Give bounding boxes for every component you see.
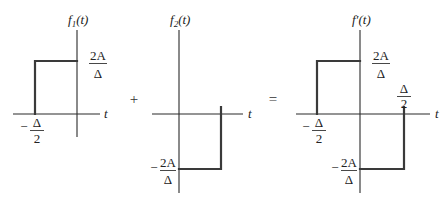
fprime-positive-pulse	[317, 61, 360, 114]
fprime-neg-amplitude-label: − 2A Δ	[331, 155, 357, 187]
svg-text:−: −	[150, 160, 157, 175]
svg-text:2: 2	[316, 131, 323, 146]
svg-text:2A: 2A	[160, 155, 177, 170]
svg-text:−: −	[331, 160, 338, 175]
equals-operator: =	[269, 91, 277, 107]
svg-text:2A: 2A	[373, 48, 390, 63]
f2-amplitude-label: − 2A Δ	[150, 155, 176, 187]
f1-edge-label: − Δ 2	[20, 115, 44, 146]
svg-text:−: −	[20, 119, 27, 134]
panel-fprime: f′(t) t 2A Δ Δ 2 − Δ 2 − 2A Δ	[296, 12, 439, 193]
f1-title: f1(t)	[68, 12, 88, 29]
svg-text:Δ: Δ	[315, 115, 323, 130]
svg-text:Δ: Δ	[400, 81, 408, 96]
svg-text:Δ: Δ	[377, 66, 385, 81]
fprime-right-edge-label: Δ 2	[397, 81, 411, 111]
plus-operator: +	[130, 91, 138, 107]
panel-f1: f1(t) t 2A Δ − Δ 2	[13, 12, 108, 146]
svg-text:2: 2	[401, 96, 408, 111]
fprime-negative-pulse	[360, 107, 404, 169]
f1-t-label: t	[104, 106, 108, 121]
fprime-pos-amplitude-label: 2A Δ	[372, 48, 390, 81]
f1-pulse	[35, 61, 77, 114]
svg-text:Δ: Δ	[33, 115, 41, 130]
svg-text:Δ: Δ	[345, 172, 353, 187]
svg-text:2: 2	[34, 131, 41, 146]
f2-title: f2(t)	[170, 12, 190, 29]
svg-text:Δ: Δ	[94, 66, 102, 81]
svg-text:2A: 2A	[90, 48, 107, 63]
f2-t-label: t	[248, 106, 252, 121]
svg-text:−: −	[302, 119, 309, 134]
fprime-left-edge-label: − Δ 2	[302, 115, 326, 146]
fprime-t-label: t	[435, 106, 439, 121]
f2-pulse	[179, 107, 221, 169]
fprime-title: f′(t)	[352, 12, 371, 27]
signal-diagram: f1(t) t 2A Δ − Δ 2 + f2(t) t − 2A Δ =	[0, 0, 447, 202]
f1-amplitude-label: 2A Δ	[89, 48, 107, 81]
svg-text:Δ: Δ	[164, 172, 172, 187]
panel-f2: f2(t) t − 2A Δ	[150, 12, 252, 193]
svg-text:2A: 2A	[341, 155, 358, 170]
